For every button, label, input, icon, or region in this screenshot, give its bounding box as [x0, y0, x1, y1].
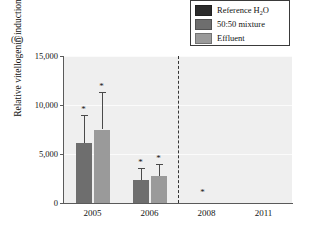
- significance-asterisk: *: [81, 106, 86, 113]
- error-bar-cap: [99, 92, 106, 93]
- y-axis-tick: [60, 203, 64, 204]
- x-axis-line: [63, 203, 293, 204]
- error-bar: [102, 92, 103, 129]
- legend-swatch-effluent: [195, 33, 212, 44]
- plot-area: *****: [64, 56, 292, 203]
- error-bar-cap: [156, 164, 163, 165]
- bar[interactable]: [151, 176, 167, 203]
- legend-item-reference-water[interactable]: Reference H2O: [195, 4, 289, 17]
- y-axis-tick-label: 15,000: [35, 51, 58, 61]
- legend-swatch-fifty-fifty-mixture: [195, 19, 212, 30]
- legend-item-effluent[interactable]: Effluent: [195, 32, 289, 45]
- significance-asterisk-2008: *: [200, 189, 205, 196]
- period-divider-line: [178, 56, 179, 203]
- legend-label-reference-water: Reference H2O: [217, 6, 269, 16]
- x-axis-tick-label: 2008: [198, 208, 216, 218]
- x-axis-tick-label: 2011: [255, 208, 273, 218]
- y-axis-tick-label: 5,000: [39, 149, 58, 159]
- y-axis-tick: [60, 56, 64, 57]
- x-axis-tick-label: 2006: [141, 208, 159, 218]
- figure-panel-c: (C) Reference H2O 50:50 mixture Effluent…: [0, 0, 309, 232]
- bar[interactable]: [76, 143, 92, 203]
- x-axis-tick-label: 2005: [84, 208, 102, 218]
- error-bar: [159, 164, 160, 176]
- significance-asterisk: *: [156, 155, 161, 162]
- legend-label-effluent: Effluent: [217, 34, 245, 43]
- legend-label-fifty-fifty-mixture: 50:50 mixture: [217, 20, 265, 29]
- error-bar-cap: [81, 115, 88, 116]
- y-axis-tick-label: 0: [54, 198, 58, 208]
- legend-item-fifty-fifty-mixture[interactable]: 50:50 mixture: [195, 18, 289, 31]
- bar[interactable]: [94, 130, 110, 204]
- legend-swatch-reference-water: [195, 5, 212, 16]
- bar[interactable]: [133, 180, 149, 203]
- error-bar: [141, 168, 142, 181]
- significance-asterisk: *: [138, 159, 143, 166]
- y-axis-tick: [60, 154, 64, 155]
- error-bar: [84, 115, 85, 143]
- chart-legend: Reference H2O 50:50 mixture Effluent: [190, 0, 290, 46]
- y-axis-title: Relative vitellogenin induction: [13, 0, 23, 133]
- y-axis-tick-label: 10,000: [35, 100, 58, 110]
- error-bar-cap: [138, 168, 145, 169]
- y-axis-line: [63, 56, 64, 204]
- y-axis-tick: [60, 105, 64, 106]
- significance-asterisk: *: [99, 83, 104, 90]
